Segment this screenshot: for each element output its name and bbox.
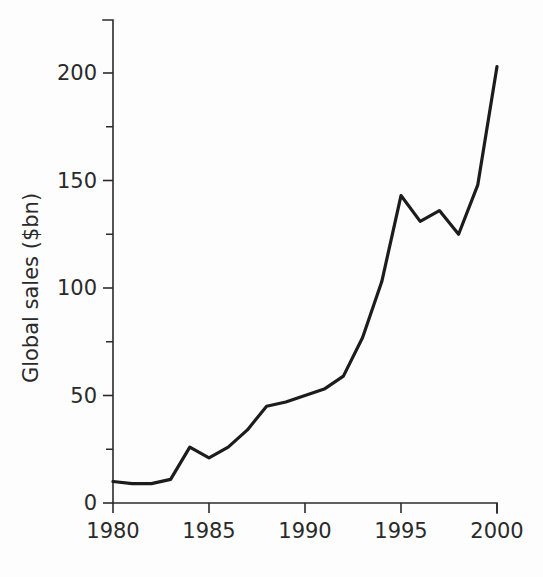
y-tick-label-50: 50 — [70, 384, 97, 408]
chart-figure: 050100150200 19801985199019952000 Global… — [0, 0, 543, 577]
line-chart-canvas: 050100150200 19801985199019952000 Global… — [0, 0, 543, 577]
x-tick-label-1990: 1990 — [278, 519, 331, 543]
y-tick-label-0: 0 — [84, 491, 97, 515]
y-tick-label-100: 100 — [57, 276, 97, 300]
y-axis-title: Global sales ($bn) — [19, 193, 43, 383]
x-tick-label-1985: 1985 — [182, 519, 235, 543]
y-tick-label-200: 200 — [57, 61, 97, 85]
x-tick-label-1980: 1980 — [86, 519, 139, 543]
x-tick-label-2000: 2000 — [470, 519, 523, 543]
x-tick-label-1995: 1995 — [374, 519, 427, 543]
y-tick-label-150: 150 — [57, 169, 97, 193]
